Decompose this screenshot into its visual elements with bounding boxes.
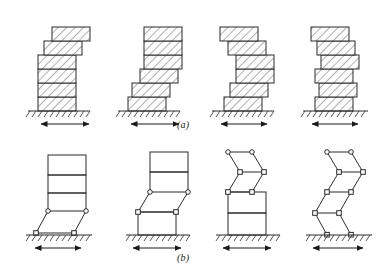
storey-block <box>236 55 274 69</box>
hinge-node <box>136 210 141 215</box>
hinge-node <box>250 190 255 195</box>
storey-block <box>230 83 268 97</box>
storey-block <box>38 97 76 111</box>
storey-block <box>38 69 76 83</box>
hinge-node <box>226 190 231 195</box>
caption-row-b: (b) <box>177 252 189 263</box>
storey-block <box>228 41 266 55</box>
storey-block <box>132 83 170 97</box>
storey-block <box>220 27 258 41</box>
hinge-node <box>361 170 366 175</box>
storey-block <box>311 27 349 41</box>
storey-block <box>128 97 166 111</box>
storey-block <box>144 41 182 55</box>
hinge-node <box>337 170 342 175</box>
hinge-node <box>349 150 354 155</box>
storey-block <box>52 27 90 41</box>
storey-block <box>38 83 76 97</box>
hinge-node <box>250 150 255 155</box>
hinge-node <box>174 210 179 215</box>
hinge-node <box>349 190 354 195</box>
storey-block <box>236 69 274 83</box>
storey-block <box>144 27 182 41</box>
hinge-node <box>238 170 243 175</box>
storey-block <box>140 69 178 83</box>
storey-block <box>38 55 76 69</box>
hinge-node <box>313 211 318 216</box>
storey-block <box>224 97 262 111</box>
hinge-node <box>148 190 153 195</box>
hinge-node <box>226 150 231 155</box>
hinge-node <box>325 150 330 155</box>
hinge-node <box>337 211 342 216</box>
storey-block <box>144 55 182 69</box>
hinge-node <box>325 190 330 195</box>
storey-block <box>319 83 357 97</box>
storey-block <box>44 41 82 55</box>
storey-block <box>315 69 353 83</box>
hinge-node <box>46 209 51 214</box>
hinge-node <box>84 209 89 214</box>
hinge-node <box>186 190 191 195</box>
deformation-modes-figure <box>0 0 389 274</box>
storey-block <box>315 97 353 111</box>
storey-block <box>321 55 359 69</box>
storey-block <box>317 41 355 55</box>
caption-row-a: (a) <box>177 119 189 130</box>
hinge-node <box>262 170 267 175</box>
